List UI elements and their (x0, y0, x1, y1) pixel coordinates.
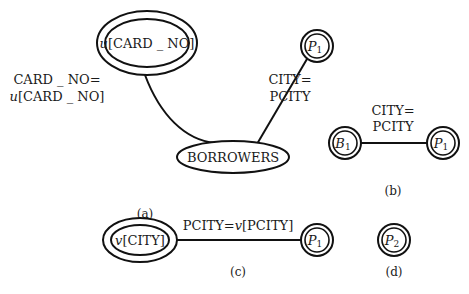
edge-u-borrowers (145, 75, 215, 143)
edge-p1-label-line2: PCITY (269, 89, 311, 104)
b1-var: B (334, 136, 345, 151)
caption-d: (d) (385, 265, 402, 279)
p1-b-sub: 1 (443, 142, 449, 152)
node-b1: B1 (329, 127, 361, 159)
svg-text:PCITY=v[PCITY]: PCITY=v[PCITY] (183, 218, 294, 233)
node-v-attr: [CITY] (122, 233, 164, 248)
edge-b-label-line2: PCITY (372, 119, 414, 134)
p1-c-var: P (307, 233, 317, 248)
edge-c-attr: [PCITY] (242, 218, 293, 233)
caption-c: (c) (230, 265, 246, 279)
b1-sub: 1 (345, 142, 351, 152)
caption-b: (b) (384, 184, 401, 198)
p1-a-var: P (307, 39, 317, 54)
edge-u-label-line1: CARD _ NO= (13, 72, 100, 87)
p2-sub: 2 (394, 239, 400, 249)
node-borrowers: BORROWERS (177, 141, 289, 173)
edge-p1-label-line1: CITY= (268, 72, 311, 87)
node-v-city: v[CITY] (103, 218, 177, 262)
p1-b-var: P (433, 136, 443, 151)
node-p1-a: P1 (301, 30, 333, 62)
edge-u-label-var: u (10, 89, 18, 104)
svg-text:v[CITY]: v[CITY] (115, 233, 165, 248)
edge-u-label-attr: [CARD _ NO] (18, 89, 105, 104)
node-u-var: u (100, 36, 108, 51)
node-p2: P2 (378, 224, 410, 256)
edge-b-label-line1: CITY= (371, 103, 414, 118)
node-p1-c: P1 (301, 224, 333, 256)
node-u-attr: [CARD _ NO] (108, 36, 195, 51)
p1-a-sub: 1 (317, 45, 323, 55)
query-graph-diagram: u[CARD _ NO] CARD _ NO= u[CARD _ NO] BOR… (0, 0, 469, 294)
p1-c-sub: 1 (317, 239, 323, 249)
svg-text:u[CARD _ NO]: u[CARD _ NO] (10, 89, 105, 104)
borrowers-label: BORROWERS (187, 150, 279, 165)
node-u-card-no: u[CARD _ NO] (97, 11, 197, 75)
p2-var: P (384, 233, 394, 248)
node-p1-b: P1 (427, 127, 459, 159)
edge-c-pre: PCITY= (183, 218, 235, 233)
svg-text:u[CARD _ NO]: u[CARD _ NO] (100, 36, 195, 51)
